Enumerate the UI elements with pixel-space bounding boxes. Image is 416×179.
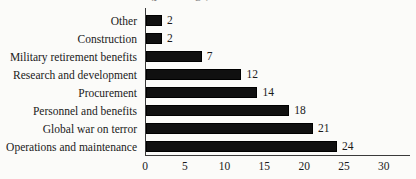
plot-area: 2271214182124051015202530 [145, 8, 416, 155]
bar-row: 2 [146, 12, 411, 30]
bar-row: 18 [146, 102, 411, 120]
bar [146, 105, 289, 116]
bar-value-label: 7 [207, 49, 213, 64]
bar-row: 24 [146, 138, 411, 156]
category-label: Research and development [13, 66, 137, 84]
x-tick-label: 30 [378, 159, 390, 173]
bar-value-label: 2 [167, 13, 173, 28]
bar [146, 33, 162, 44]
bar-value-label: 2 [167, 31, 173, 46]
bar-row: 14 [146, 84, 411, 102]
category-label: Operations and maintenance [6, 138, 137, 156]
bar [146, 51, 202, 62]
bar [146, 69, 241, 80]
category-label: Military retirement benefits [10, 48, 137, 66]
chart-title: (percentage) [150, 0, 416, 1]
x-tick-label: 0 [142, 159, 148, 173]
bar-row: 7 [146, 48, 411, 66]
bar-row: 2 [146, 30, 411, 48]
x-tick-label: 25 [338, 159, 350, 173]
bar-row: 21 [146, 120, 411, 138]
x-tick-label: 20 [298, 159, 310, 173]
bar-value-label: 24 [342, 139, 354, 154]
bar [146, 141, 337, 152]
bar [146, 123, 313, 134]
bar [146, 87, 257, 98]
bar-value-label: 12 [246, 67, 258, 82]
category-label: Personnel and benefits [33, 102, 137, 120]
category-label: Global war on terror [43, 120, 137, 138]
x-tick-label: 5 [182, 159, 188, 173]
bar-row: 12 [146, 66, 411, 84]
bar-value-label: 14 [262, 85, 274, 100]
category-label: Other [111, 12, 137, 30]
x-tick-label: 10 [219, 159, 231, 173]
bar-value-label: 18 [294, 103, 306, 118]
category-label: Procurement [78, 84, 137, 102]
bar-chart: (percentage) OtherConstructionMilitary r… [0, 0, 416, 179]
category-label: Construction [78, 30, 137, 48]
category-axis-labels: OtherConstructionMilitary retirement ben… [0, 8, 141, 155]
x-tick-label: 15 [259, 159, 271, 173]
bar-value-label: 21 [318, 121, 330, 136]
bar [146, 15, 162, 26]
